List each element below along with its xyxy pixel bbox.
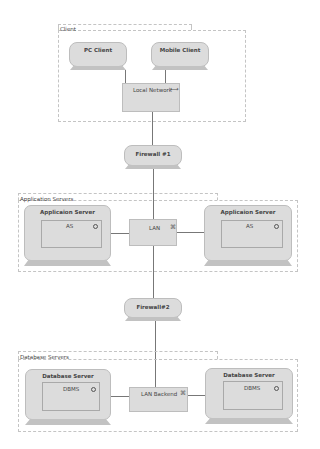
network-hub-icon: ⌘ [170, 224, 176, 230]
app-server-left-node[interactable]: Applicaion Server AS [24, 205, 111, 261]
db-server-right-node[interactable]: Database Server DBMS [205, 368, 293, 419]
pc-client-label: PC Client [70, 47, 126, 53]
app-group-label: Application Servers [20, 196, 73, 202]
lan-label: LAN [149, 225, 160, 231]
connector-lanbackend-dbright [188, 395, 205, 396]
firewall1-node[interactable]: Firewall #1 [124, 145, 182, 166]
app-server-left-label: Applicaion Server [25, 209, 110, 215]
connector-appleft-lan [111, 233, 129, 234]
mobile-client-label: Mobile Client [152, 47, 208, 53]
app-server-right-inner: AS [221, 220, 283, 248]
pc-client-node[interactable]: PC Client [69, 42, 127, 67]
local-network-box[interactable]: Local Network ⟷ [122, 83, 180, 112]
connector-pc-local [125, 70, 126, 84]
gear-icon [274, 224, 279, 229]
dbms-label: DBMS [244, 385, 260, 391]
app-server-left-inner: AS [41, 220, 102, 248]
app-server-left-base [24, 260, 111, 266]
network-hub-icon: ⌘ [180, 390, 186, 396]
lan-backend-box[interactable]: LAN Backend ⌘ [129, 387, 188, 412]
firewall2-label: Firewall#2 [125, 304, 181, 310]
db-server-right-base [205, 418, 293, 424]
connector-dbleft-lanbackend [111, 396, 129, 397]
as-label: AS [66, 223, 73, 229]
connector-lan-appright [177, 232, 204, 233]
connector-local-firewall1 [152, 112, 153, 146]
app-server-right-label: Applicaion Server [205, 209, 291, 215]
mobile-client-node[interactable]: Mobile Client [151, 42, 209, 67]
app-server-right-node[interactable]: Applicaion Server AS [204, 205, 292, 261]
firewall1-label: Firewall #1 [125, 151, 181, 157]
db-server-right-inner: DBMS [223, 381, 283, 410]
db-server-left-inner: DBMS [42, 382, 100, 411]
db-group-label: Database Servers [20, 354, 69, 360]
as-label: AS [246, 223, 253, 229]
app-server-right-base [204, 260, 292, 266]
db-server-right-label: Database Server [206, 372, 292, 378]
gear-icon [274, 386, 279, 391]
db-server-left-label: Database Server [26, 373, 110, 379]
connector-mobile-local [165, 70, 166, 84]
connector-lan-firewall2 [153, 246, 154, 299]
db-server-left-base [25, 419, 111, 425]
client-group-label: Client [60, 26, 76, 32]
db-server-left-node[interactable]: Database Server DBMS [25, 369, 111, 420]
firewall2-node[interactable]: Firewall#2 [124, 298, 182, 318]
lan-backend-label: LAN Backend [141, 391, 177, 397]
dbms-label: DBMS [63, 386, 79, 392]
firewall2-base [125, 317, 181, 321]
lan-box[interactable]: LAN ⌘ [129, 219, 177, 246]
gear-icon [93, 224, 98, 229]
network-arrows-icon: ⟷ [170, 86, 179, 92]
mobile-client-base [152, 66, 208, 70]
local-network-label: Local Network [133, 87, 172, 93]
gear-icon [91, 387, 96, 392]
pc-client-base [70, 66, 126, 70]
